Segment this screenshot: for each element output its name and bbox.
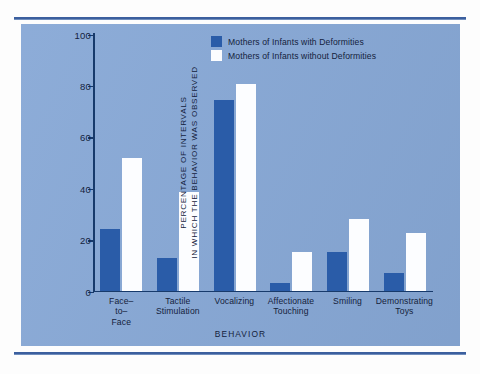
bar-groups xyxy=(93,34,433,291)
plot-area: 020406080100 IN WHICH THE BEHAVIOR WAS O… xyxy=(93,33,433,292)
bar xyxy=(349,219,369,291)
bar-group xyxy=(320,34,377,291)
bar xyxy=(100,229,120,291)
bar xyxy=(236,84,256,291)
bar-group xyxy=(206,34,263,291)
y-tick-label-80: 80 xyxy=(80,80,91,91)
bar xyxy=(406,233,426,291)
y-tick-label-60: 60 xyxy=(80,132,91,143)
x-axis-label: Smiling xyxy=(319,296,376,327)
bottom-rule xyxy=(14,352,466,355)
bar-group xyxy=(150,34,207,291)
x-axis-label: TactileStimulation xyxy=(150,296,207,327)
y-tick-label-0: 0 xyxy=(86,286,91,297)
y-tick-label-20: 20 xyxy=(80,235,91,246)
bar xyxy=(214,100,234,290)
bar-group xyxy=(376,34,433,291)
bar xyxy=(292,252,312,291)
bar-group xyxy=(263,34,320,291)
bar xyxy=(384,273,404,291)
figure-page: Mothers of Infants with Deformities Moth… xyxy=(0,0,480,374)
x-axis-label: AffectionateTouching xyxy=(263,296,320,327)
bar xyxy=(157,258,177,290)
x-axis-label: Face–to–Face xyxy=(93,296,150,327)
x-axis-labels: Face–to–FaceTactileStimulationVocalizing… xyxy=(93,296,433,327)
x-axis-label: Vocalizing xyxy=(206,296,263,327)
x-axis-label: DemonstratingToys xyxy=(376,296,433,327)
y-tick-label-100: 100 xyxy=(75,29,91,40)
x-axis-line xyxy=(93,291,433,293)
y-tick-label-40: 40 xyxy=(80,183,91,194)
bar xyxy=(327,252,347,291)
x-axis-title: BEHAVIOR xyxy=(21,329,460,339)
top-rule xyxy=(14,17,466,20)
bar-group xyxy=(93,34,150,291)
chart-panel: Mothers of Infants with Deformities Moth… xyxy=(21,24,460,346)
bar xyxy=(122,158,142,290)
bar xyxy=(270,283,290,291)
bar xyxy=(179,192,199,291)
